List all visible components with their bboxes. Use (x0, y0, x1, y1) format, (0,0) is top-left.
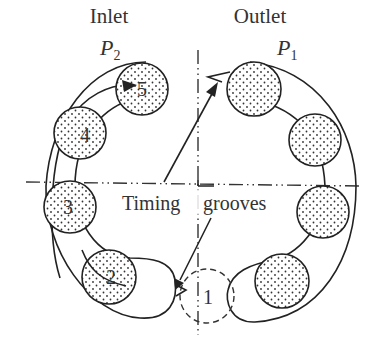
gear-pump-timing-diagram: 5 4 3 2 1 Inlet P2 Outlet P1 Timing groo… (0, 0, 385, 343)
arrowhead-outlet-groove (206, 82, 218, 97)
pocket-2: 2 (82, 250, 136, 304)
pocket-number-1: 1 (203, 286, 213, 308)
pocket-number-2: 2 (106, 266, 116, 288)
pocket-number-5: 5 (137, 78, 147, 100)
outlet-timing-groove (208, 72, 230, 82)
pocket-1: 1 (180, 269, 234, 323)
outlet-pocket-upper (289, 114, 341, 166)
outlet-label: Outlet (234, 4, 287, 28)
pocket-3: 3 (44, 181, 96, 233)
pocket-number-3: 3 (63, 196, 73, 218)
inlet-pressure-label: P2 (99, 35, 120, 63)
grooves-label: grooves (203, 192, 267, 215)
centerline-corner-mark (198, 180, 214, 186)
outlet-pocket-bottom (255, 254, 309, 308)
leader-line-outlet (164, 92, 213, 182)
timing-label: Timing (122, 192, 180, 215)
inlet-label: Inlet (90, 4, 129, 28)
pocket-4: 4 (54, 107, 106, 159)
leader-line-inlet (180, 218, 211, 280)
pocket-number-4: 4 (80, 124, 90, 146)
outlet-pressure-label: P1 (276, 35, 297, 63)
outlet-pocket-lower (297, 186, 349, 238)
outlet-pocket-top (227, 62, 281, 116)
